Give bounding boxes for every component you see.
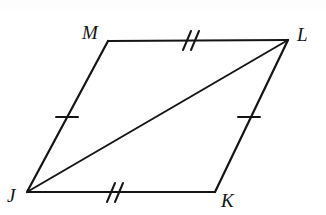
vertex-label-j: J — [7, 186, 15, 205]
edge-ml — [108, 40, 288, 41]
parallelogram-drawing-canvas — [0, 0, 326, 215]
vertex-label-m: M — [82, 23, 98, 42]
geometry-figure-parallelogram-jklm: M L J K — [0, 0, 326, 215]
vertex-label-l: L — [297, 25, 308, 44]
vertex-label-k: K — [221, 191, 234, 210]
